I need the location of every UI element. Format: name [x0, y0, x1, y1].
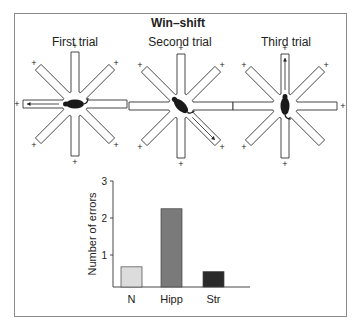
bar-str [203, 272, 224, 287]
y-tick-label: 3 [101, 176, 107, 187]
x-tick-label: Str [206, 293, 220, 305]
bar-n [121, 267, 142, 287]
y-tick-label: 1 [101, 250, 107, 261]
errors-bar-chart: 123Number of errorsNHippStr [0, 0, 356, 328]
y-tick-label: 2 [101, 213, 107, 224]
x-tick-label: Hipp [160, 293, 183, 305]
y-axis-label: Number of errors [86, 192, 98, 276]
x-tick-label: N [128, 293, 136, 305]
bar-hipp [161, 209, 182, 287]
